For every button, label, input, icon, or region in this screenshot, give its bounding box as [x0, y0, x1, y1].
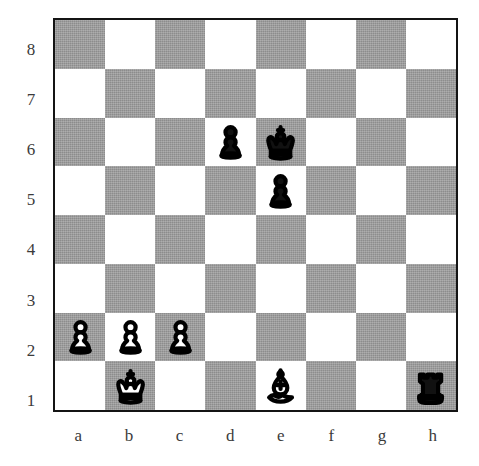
square-c1[interactable] — [155, 361, 205, 410]
square-d5[interactable] — [205, 166, 255, 215]
square-h5[interactable] — [406, 166, 456, 215]
square-g8[interactable] — [356, 20, 406, 69]
square-g2[interactable] — [356, 313, 406, 362]
file-label-e: e — [256, 427, 307, 444]
white-bishop-icon[interactable] — [256, 361, 306, 410]
rank-label-4: 4 — [16, 241, 46, 258]
square-a4[interactable] — [55, 215, 105, 264]
square-c2[interactable] — [155, 313, 205, 362]
black-pawn-icon[interactable] — [256, 166, 306, 215]
square-e2[interactable] — [256, 313, 306, 362]
square-b8[interactable] — [105, 20, 155, 69]
square-e8[interactable] — [256, 20, 306, 69]
square-a6[interactable] — [55, 118, 105, 167]
square-g6[interactable] — [356, 118, 406, 167]
square-e3[interactable] — [256, 264, 306, 313]
square-h4[interactable] — [406, 215, 456, 264]
white-pawn-icon[interactable] — [155, 313, 205, 362]
square-e1[interactable] — [256, 361, 306, 410]
square-g4[interactable] — [356, 215, 406, 264]
square-e5[interactable] — [256, 166, 306, 215]
file-label-h: h — [407, 427, 458, 444]
chess-board[interactable] — [53, 18, 458, 412]
square-a5[interactable] — [55, 166, 105, 215]
square-a8[interactable] — [55, 20, 105, 69]
square-a7[interactable] — [55, 69, 105, 118]
square-d6[interactable] — [205, 118, 255, 167]
file-label-a: a — [53, 427, 104, 444]
rank-label-6: 6 — [16, 141, 46, 158]
square-b3[interactable] — [105, 264, 155, 313]
square-f2[interactable] — [306, 313, 356, 362]
square-f7[interactable] — [306, 69, 356, 118]
file-label-g: g — [357, 427, 408, 444]
rank-label-2: 2 — [16, 342, 46, 359]
square-b4[interactable] — [105, 215, 155, 264]
rank-label-3: 3 — [16, 292, 46, 309]
square-d8[interactable] — [205, 20, 255, 69]
file-label-b: b — [104, 427, 155, 444]
rank-label-1: 1 — [16, 392, 46, 409]
square-a2[interactable] — [55, 313, 105, 362]
square-f1[interactable] — [306, 361, 356, 410]
square-d7[interactable] — [205, 69, 255, 118]
file-label-c: c — [154, 427, 205, 444]
square-d3[interactable] — [205, 264, 255, 313]
black-rook-icon[interactable] — [406, 361, 456, 410]
square-f5[interactable] — [306, 166, 356, 215]
chess-diagram: 8 7 6 5 4 3 2 1 a b c d e f g h — [0, 0, 479, 466]
square-f4[interactable] — [306, 215, 356, 264]
square-a3[interactable] — [55, 264, 105, 313]
square-c4[interactable] — [155, 215, 205, 264]
square-h6[interactable] — [406, 118, 456, 167]
black-king-icon[interactable] — [256, 118, 306, 167]
square-d2[interactable] — [205, 313, 255, 362]
square-h1[interactable] — [406, 361, 456, 410]
square-f6[interactable] — [306, 118, 356, 167]
square-b6[interactable] — [105, 118, 155, 167]
black-pawn-icon[interactable] — [205, 118, 255, 167]
square-d4[interactable] — [205, 215, 255, 264]
square-d1[interactable] — [205, 361, 255, 410]
file-label-d: d — [205, 427, 256, 444]
white-pawn-icon[interactable] — [105, 313, 155, 362]
square-c6[interactable] — [155, 118, 205, 167]
white-pawn-icon[interactable] — [55, 313, 105, 362]
rank-label-5: 5 — [16, 191, 46, 208]
file-label-f: f — [306, 427, 357, 444]
square-a1[interactable] — [55, 361, 105, 410]
rank-label-7: 7 — [16, 91, 46, 108]
square-g3[interactable] — [356, 264, 406, 313]
board-squares — [55, 20, 456, 410]
square-c7[interactable] — [155, 69, 205, 118]
square-h2[interactable] — [406, 313, 456, 362]
square-g1[interactable] — [356, 361, 406, 410]
square-g7[interactable] — [356, 69, 406, 118]
square-f3[interactable] — [306, 264, 356, 313]
square-b7[interactable] — [105, 69, 155, 118]
square-c5[interactable] — [155, 166, 205, 215]
white-king-icon[interactable] — [105, 361, 155, 410]
square-e6[interactable] — [256, 118, 306, 167]
rank-label-8: 8 — [16, 41, 46, 58]
square-b2[interactable] — [105, 313, 155, 362]
square-c8[interactable] — [155, 20, 205, 69]
square-c3[interactable] — [155, 264, 205, 313]
square-e4[interactable] — [256, 215, 306, 264]
square-h3[interactable] — [406, 264, 456, 313]
square-h7[interactable] — [406, 69, 456, 118]
square-g5[interactable] — [356, 166, 406, 215]
square-h8[interactable] — [406, 20, 456, 69]
square-e7[interactable] — [256, 69, 306, 118]
square-b5[interactable] — [105, 166, 155, 215]
square-f8[interactable] — [306, 20, 356, 69]
square-b1[interactable] — [105, 361, 155, 410]
